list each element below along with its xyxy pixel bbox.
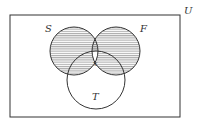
set-t-label: T: [92, 91, 100, 102]
venn-diagram: U S F T x: [0, 0, 204, 125]
universe-label: U: [184, 5, 193, 16]
set-f-label-text: F: [139, 23, 148, 34]
center-x-label: x: [93, 59, 98, 68]
set-s-label: S: [45, 23, 52, 34]
